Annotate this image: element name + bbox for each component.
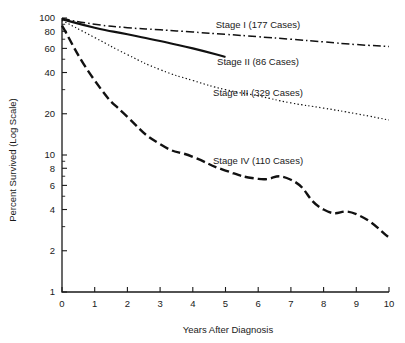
y-tick-label: 4 xyxy=(50,204,55,215)
y-tick-label: 10 xyxy=(44,149,55,160)
survival-chart: 100806040201086421 012345678910 Stage I … xyxy=(0,0,405,343)
x-tick-label: 4 xyxy=(190,298,195,309)
x-tick-label: 0 xyxy=(59,298,64,309)
y-tick-label: 40 xyxy=(44,67,55,78)
series-curve-stage-iii xyxy=(62,20,389,120)
x-tick-label: 10 xyxy=(384,298,395,309)
y-tick-label: 6 xyxy=(50,180,55,191)
data-series-curves xyxy=(62,19,389,238)
series-label-stage-i: Stage I (177 Cases) xyxy=(216,19,301,30)
y-tick-label: 100 xyxy=(39,12,55,23)
series-label-stage-ii: Stage II (86 Cases) xyxy=(217,56,299,67)
x-axis-title: Years After Diagnosis xyxy=(183,324,274,335)
x-tick-label: 9 xyxy=(354,298,359,309)
x-tick-label: 5 xyxy=(223,298,228,309)
series-curve-stage-ii xyxy=(62,19,226,57)
y-tick-label: 8 xyxy=(50,163,55,174)
y-tick-label: 2 xyxy=(50,245,55,256)
series-labels: Stage I (177 Cases)Stage II (86 Cases)St… xyxy=(213,19,303,166)
x-tick-label: 1 xyxy=(92,298,97,309)
x-tick-label: 8 xyxy=(321,298,326,309)
y-tick-label: 1 xyxy=(50,286,55,297)
chart-plot-area: 100806040201086421 012345678910 Stage I … xyxy=(0,0,405,343)
x-tick-label: 2 xyxy=(125,298,130,309)
x-axis-tick-labels: 012345678910 xyxy=(59,298,394,309)
x-tick-label: 3 xyxy=(157,298,162,309)
y-axis-tick-labels: 100806040201086421 xyxy=(39,12,55,297)
series-label-stage-iii: Stage III (329 Cases) xyxy=(213,87,303,98)
series-label-stage-iv: Stage IV (110 Cases) xyxy=(213,155,303,166)
x-tick-label: 6 xyxy=(256,298,261,309)
y-tick-label: 80 xyxy=(44,26,55,37)
x-tick-label: 7 xyxy=(288,298,293,309)
y-axis-title: Percent Survived (Log Scale) xyxy=(7,98,18,222)
y-tick-label: 20 xyxy=(44,108,55,119)
y-tick-label: 60 xyxy=(44,43,55,54)
